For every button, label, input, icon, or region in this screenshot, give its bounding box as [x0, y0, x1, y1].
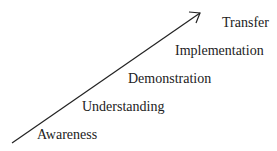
- progression-diagram: Awareness Understanding Demonstration Im…: [0, 0, 277, 151]
- stage-implementation: Implementation: [175, 44, 264, 58]
- stage-demonstration: Demonstration: [128, 72, 211, 86]
- stage-understanding: Understanding: [82, 100, 164, 114]
- stage-transfer: Transfer: [222, 16, 269, 30]
- stage-awareness: Awareness: [37, 128, 97, 142]
